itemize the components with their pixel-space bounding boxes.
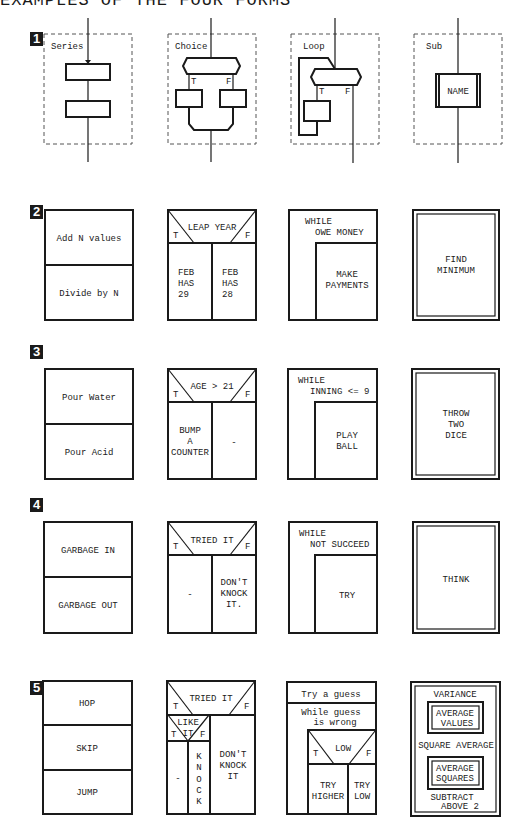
while-condition: While guess: [301, 708, 360, 718]
sequence-stmt: JUMP: [76, 788, 98, 798]
while-condition: INNING <= 9: [310, 387, 369, 397]
sub-call-text: SQUARES: [436, 774, 474, 784]
while-body: PLAY: [336, 431, 358, 441]
if-condition: AGE > 21: [190, 382, 233, 392]
inner-false-letter: N: [196, 763, 201, 773]
while-block-3: WHILE INNING <= 9 PLAY BALL: [288, 369, 377, 479]
if-false-text: -: [231, 438, 236, 448]
sequence-stmt: Pour Water: [62, 393, 116, 403]
if-true-text: HAS: [178, 279, 194, 289]
while-condition: is wrong: [313, 718, 356, 728]
if-block-2: LEAP YEAR T F FEB HAS 29 FEB HAS 28: [168, 210, 256, 320]
if-false-text: DON'T: [220, 578, 248, 588]
if-condition: TRIED IT: [189, 694, 233, 704]
sub-call-text: AVERAGE: [436, 764, 474, 774]
choice-label: Choice: [175, 42, 207, 52]
variance-bottom: ABOVE 2: [441, 802, 479, 812]
sub-form: Sub NAME: [414, 18, 502, 163]
if-false-text: IT: [228, 772, 239, 782]
nested-false-text: TRY: [354, 781, 371, 791]
choice-true-label: T: [191, 77, 197, 87]
sub-text: FIND: [445, 255, 467, 265]
choice-form: Choice T F: [168, 18, 256, 162]
while-condition: OWE MONEY: [315, 228, 364, 238]
sequence-block-4: GARBAGE IN GARBAGE OUT: [44, 522, 132, 633]
sub-block-4: THINK: [413, 522, 499, 633]
sub-text: MINIMUM: [437, 266, 475, 276]
loop-true-label: T: [319, 87, 325, 97]
variance-title: VARIANCE: [433, 690, 476, 700]
while-body: MAKE: [336, 270, 358, 280]
loop-false-label: F: [345, 87, 350, 97]
if-false-label: F: [245, 390, 250, 400]
nested-condition: LOW: [335, 744, 352, 754]
while-body: BALL: [336, 442, 358, 452]
if-block-4: TRIED IT T F - DON'T KNOCK IT.: [168, 522, 256, 633]
sub-text: DICE: [445, 431, 467, 441]
nested-true-text: HIGHER: [312, 792, 345, 802]
sub-label: Sub: [426, 42, 442, 52]
nested-if-block-5: TRIED IT T F LIKE IT T F - K N O C K DON…: [167, 681, 255, 814]
nested-false-label: F: [366, 749, 371, 759]
sequence-block-2: Add N values Divide by N: [45, 210, 133, 320]
nested-true-text: TRY: [320, 781, 337, 791]
if-false-text: HAS: [222, 279, 238, 289]
nested-false-text: LOW: [354, 792, 371, 802]
if-true-text: A: [187, 437, 193, 447]
if-true-text: BUMP: [179, 426, 201, 436]
if-condition: LEAP YEAR: [188, 223, 237, 233]
if-false-text: FEB: [222, 268, 239, 278]
sub-text: THROW: [442, 409, 470, 419]
inner-false-letter: K: [196, 797, 202, 807]
if-true-text: 29: [178, 290, 189, 300]
inner-false-letter: K: [196, 752, 202, 762]
sub-call-text: VALUES: [441, 719, 473, 729]
if-true-text: FEB: [178, 268, 195, 278]
while-block-2: WHILE OWE MONEY MAKE PAYMENTS: [289, 210, 377, 320]
while-condition: NOT SUCCEED: [310, 540, 369, 550]
if-true-text: -: [187, 590, 192, 600]
variance-block-5: VARIANCE AVERAGE VALUES SQUARE AVERAGE A…: [411, 682, 500, 816]
if-block-3: AGE > 21 T F BUMP A COUNTER -: [168, 369, 256, 479]
diagram-canvas: Series Choice T F Loop T F: [0, 0, 514, 831]
sub-call-text: AVERAGE: [436, 709, 474, 719]
inner-condition: IT: [183, 729, 194, 739]
if-condition: TRIED IT: [190, 536, 234, 546]
while-condition: WHILE: [299, 529, 326, 539]
if-false-label: F: [245, 542, 250, 552]
if-false-text: IT.: [226, 600, 242, 610]
inner-false-letter: O: [196, 775, 201, 785]
sequence-stmt: SKIP: [76, 744, 98, 754]
if-false-text: KNOCK: [219, 761, 247, 771]
while-block-4: WHILE NOT SUCCEED TRY: [289, 522, 377, 633]
sub-text: THINK: [442, 575, 470, 585]
inner-true-text: -: [175, 774, 180, 784]
sequence-block-5: HOP SKIP JUMP: [43, 681, 132, 814]
sequence-block-3: Pour Water Pour Acid: [45, 369, 133, 479]
inner-true-label: T: [171, 730, 177, 740]
sequence-stmt: GARBAGE OUT: [58, 601, 118, 611]
top-statement: Try a guess: [301, 690, 360, 700]
choice-false-label: F: [226, 77, 231, 87]
nested-true-label: T: [313, 749, 319, 759]
sub-block-3: THROW TWO DICE: [412, 369, 499, 479]
while-body: PAYMENTS: [325, 281, 368, 291]
series-label: Series: [51, 42, 83, 52]
sequence-stmt: HOP: [79, 699, 95, 709]
variance-middle: SQUARE AVERAGE: [418, 741, 494, 751]
while-condition: WHILE: [298, 376, 325, 386]
if-true-label: T: [173, 231, 179, 241]
if-false-label: F: [244, 702, 249, 712]
if-false-text: DON'T: [219, 750, 247, 760]
if-true-text: COUNTER: [171, 448, 209, 458]
sub-block-2: FIND MINIMUM: [413, 210, 499, 320]
sequence-stmt: Pour Acid: [65, 448, 114, 458]
sub-name: NAME: [447, 87, 469, 97]
if-false-text: KNOCK: [220, 589, 248, 599]
if-false-label: F: [245, 231, 250, 241]
sequence-stmt: Add N values: [57, 234, 122, 244]
loop-form: Loop T F: [291, 18, 379, 163]
while-body: TRY: [339, 591, 356, 601]
while-condition: WHILE: [305, 217, 332, 227]
inner-condition: LIKE: [177, 718, 199, 728]
